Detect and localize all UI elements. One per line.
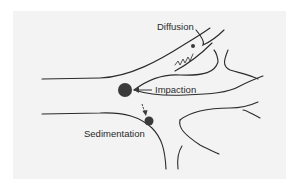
sedimentation-arrow-head xyxy=(143,110,148,116)
diffusion-particle xyxy=(191,44,195,48)
airway-wall-upper xyxy=(42,28,210,79)
airway-wall-lower-branch xyxy=(180,120,219,154)
airway-wall-diffusion-branch-left xyxy=(196,30,224,45)
airway-wall-middle-right xyxy=(225,50,259,79)
airway-wall-lower-branch-inner xyxy=(178,146,182,169)
impaction-particle xyxy=(118,83,132,97)
airway-wall-right-branch-bottom xyxy=(243,110,260,118)
diffusion-path xyxy=(175,54,193,65)
label-sedimentation: Sedimentation xyxy=(84,129,145,139)
label-impaction: Impaction xyxy=(155,85,196,95)
sedimentation-particle xyxy=(145,117,154,126)
airway-diagram xyxy=(0,0,299,189)
label-diffusion: Diffusion xyxy=(157,22,194,32)
